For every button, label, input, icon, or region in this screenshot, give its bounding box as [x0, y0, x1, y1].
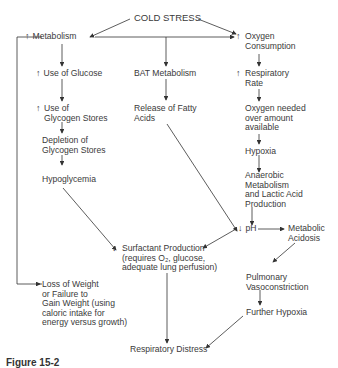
node-label: Metabolism [33, 31, 77, 41]
node-label: Use of Glycogen Stores [44, 104, 108, 123]
node-label: Oxygen Consumption [245, 32, 296, 51]
node-respiratory-rate: ↑Respiratory Rate [236, 69, 289, 88]
node-hypoglycemia: Hypoglycemia [42, 175, 96, 185]
node-use-of-glycogen: ↑Use of Glycogen Stores [36, 104, 108, 123]
node-metabolism: ↑Metabolism [25, 32, 76, 42]
increase-arrow-icon: ↑ [36, 68, 41, 78]
node-metabolic-acidosis: Metabolic Acidosis [288, 224, 325, 243]
node-release-fatty-acids: Release of Fatty Acids [134, 104, 197, 123]
increase-arrow-icon: ↑ [36, 104, 41, 114]
figure-caption: Figure 15-2 [6, 357, 59, 368]
node-label: Surfactant Production (requires O₂, gluc… [122, 244, 217, 273]
decrease-arrow-icon: ↓ [112, 244, 117, 254]
node-bat-metabolism: BAT Metabolism [134, 69, 196, 79]
increase-arrow-icon: ↑ [25, 31, 30, 41]
node-ph: ↓pH [238, 224, 257, 234]
node-loss-of-weight: Loss of Weight or Failure to Gain Weight… [42, 280, 127, 328]
node-hypoxia: Hypoxia [245, 147, 276, 157]
node-anaerobic-metabolism: Anaerobic Metabolism and Lactic Acid Pro… [245, 171, 303, 209]
increase-arrow-icon: ↑ [236, 69, 241, 79]
node-respiratory-distress: Respiratory Distress [130, 345, 207, 355]
node-cold-stress: COLD STRESS [134, 13, 201, 23]
decrease-arrow-icon: ↓ [238, 223, 243, 233]
node-surfactant-production: ↓Surfactant Production (requires O₂, glu… [112, 244, 217, 273]
node-label: Use of Glucose [44, 68, 103, 78]
node-label: pH [246, 223, 257, 233]
node-further-hypoxia: Further Hypoxia [246, 308, 307, 318]
node-depletion-glycogen: Depletion of Glycogen Stores [42, 136, 106, 155]
node-pulmonary-vasoconstriction: Pulmonary Vasoconstriction [246, 273, 308, 292]
node-oxygen-consumption: ↑Oxygen Consumption [236, 32, 296, 51]
node-use-of-glucose: ↑Use of Glucose [36, 69, 102, 79]
increase-arrow-icon: ↑ [236, 32, 241, 42]
node-oxygen-needed: Oxygen needed over amount available [245, 104, 306, 133]
node-label: Respiratory Rate [245, 69, 289, 88]
